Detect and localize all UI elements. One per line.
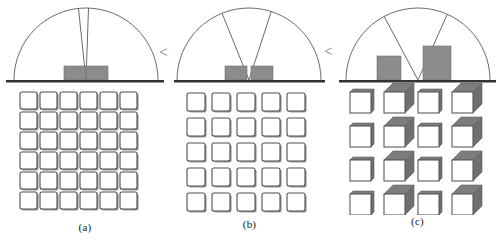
square-face [20, 152, 37, 169]
square-face [187, 93, 205, 111]
square-face [40, 172, 57, 189]
grid-square [212, 143, 232, 163]
grid-square [237, 93, 257, 113]
square-face [80, 152, 97, 169]
square-face [120, 172, 137, 189]
cube-front-face [350, 92, 371, 113]
square-face [100, 192, 117, 209]
panel-b-label: (b) [168, 218, 331, 230]
comparison-less-than-2: < [324, 44, 332, 59]
grid-square [237, 193, 257, 213]
square-face [120, 92, 137, 109]
bar-1 [64, 66, 86, 80]
square-face [80, 92, 97, 109]
grid-square [20, 192, 39, 211]
comparison-less-than-1: < [159, 45, 167, 60]
cube-front-face [418, 92, 439, 113]
grid-square [262, 168, 282, 188]
square-face [40, 152, 57, 169]
grid-square [60, 112, 79, 131]
grid-square [20, 152, 39, 171]
grid-cube [452, 83, 482, 113]
bar-1 [377, 56, 401, 80]
grid-square [287, 118, 307, 138]
square-face [287, 143, 305, 161]
square-face [287, 118, 305, 136]
grid-square [262, 118, 282, 138]
grid-square [80, 112, 99, 131]
cube-front-face [350, 160, 371, 181]
square-face [262, 143, 280, 161]
grid-cube [384, 117, 414, 147]
grid-square [40, 172, 59, 191]
grid-square [212, 118, 232, 138]
cube-front-face [384, 194, 405, 215]
square-face [212, 93, 230, 111]
square-face [212, 118, 230, 136]
grid-square [212, 168, 232, 188]
cube-front-face [452, 194, 473, 215]
square-face [120, 112, 137, 129]
grid-square [187, 93, 207, 113]
cube-front-face [452, 160, 473, 181]
grid-cube [384, 151, 414, 181]
square-face [100, 172, 117, 189]
grid-cube [418, 123, 442, 147]
square-face [60, 192, 77, 209]
grid-cube [384, 83, 414, 113]
grid-square [237, 143, 257, 163]
cube-front-face [418, 194, 439, 215]
square-face [237, 118, 255, 136]
square-face [40, 132, 57, 149]
grid-square [20, 112, 39, 131]
grid-square [187, 118, 207, 138]
grid-square [40, 152, 59, 171]
square-face [60, 152, 77, 169]
grid-square [212, 93, 232, 113]
grid-square [60, 92, 79, 111]
square-face [80, 112, 97, 129]
panel-b-diagram [168, 0, 331, 215]
square-face [80, 192, 97, 209]
square-face [100, 132, 117, 149]
grid-square [60, 172, 79, 191]
square-face [212, 143, 230, 161]
figure-container: (a) < (b) < (c) [0, 0, 502, 243]
semicircle-arc [177, 8, 321, 80]
grid-square [100, 172, 119, 191]
grid-square [80, 192, 99, 211]
square-face [40, 112, 57, 129]
grid-square [287, 193, 307, 213]
square-face [187, 168, 205, 186]
grid-cube [418, 89, 442, 113]
square-face [60, 132, 77, 149]
grid-square [120, 132, 139, 151]
grid-square [120, 152, 139, 171]
square-face [20, 172, 37, 189]
square-face [262, 118, 280, 136]
panel-c-diagram [333, 0, 502, 215]
cube-front-face [418, 126, 439, 147]
grid-square [80, 132, 99, 151]
grid-square [287, 143, 307, 163]
panel-a-label: (a) [0, 221, 170, 233]
square-face [237, 143, 255, 161]
grid-cube [350, 89, 374, 113]
bar-2 [423, 46, 451, 80]
grid-square [60, 192, 79, 211]
grid-cube [384, 185, 414, 215]
cube-front-face [452, 92, 473, 113]
square-face [20, 92, 37, 109]
grid-square [187, 168, 207, 188]
grid-square [187, 193, 207, 213]
cube-front-face [350, 126, 371, 147]
square-face [262, 193, 280, 211]
bar-1 [225, 66, 247, 80]
square-face [237, 93, 255, 111]
square-face [237, 168, 255, 186]
grid-square [120, 192, 139, 211]
panel-c-label: (c) [333, 215, 502, 227]
square-face [80, 132, 97, 149]
grid-square [100, 92, 119, 111]
square-face [100, 152, 117, 169]
